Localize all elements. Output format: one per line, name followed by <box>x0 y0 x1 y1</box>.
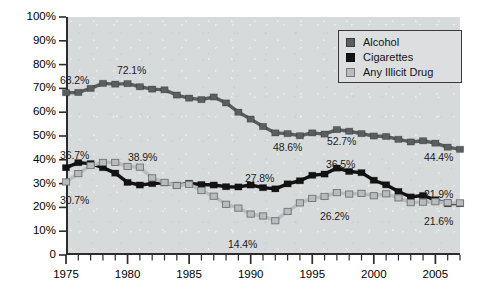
data-value-label: 44.4% <box>424 151 453 163</box>
legend-swatch-any-illicit-drug <box>346 68 355 77</box>
x-axis-tick-label: 1990 <box>238 268 264 280</box>
data-value-label: 48.6% <box>273 141 302 153</box>
legend-swatch-cigarettes <box>346 53 355 62</box>
data-value-label: 27.8% <box>245 172 274 184</box>
data-value-label: 21.6% <box>424 215 453 227</box>
chart-legend: Alcohol Cigarettes Any Illicit Drug <box>338 30 462 83</box>
y-axis-tick-label: 80% <box>33 58 56 70</box>
chart-root: 010%20%30%40%50%60%70%80%90%100% 1975198… <box>0 0 481 301</box>
x-axis-tick-label: 2005 <box>423 268 449 280</box>
y-axis-tick-label: 30% <box>33 177 56 189</box>
data-value-label: 21.9% <box>424 188 453 200</box>
data-value-label: 36.5% <box>326 158 355 170</box>
legend-swatch-alcohol <box>346 38 355 47</box>
legend-label-alcohol: Alcohol <box>363 37 399 48</box>
data-value-label: 38.9% <box>128 151 157 163</box>
data-value-label: 52.7% <box>327 135 356 147</box>
y-axis-tick-label: 70% <box>33 81 56 93</box>
series-layer <box>62 80 463 224</box>
legend-label-cigarettes: Cigarettes <box>363 52 413 63</box>
legend-label-any-illicit-drug: Any Illicit Drug <box>363 67 433 78</box>
x-axis-tick-label: 1975 <box>53 268 79 280</box>
y-axis-tick-label: 0 <box>50 248 56 260</box>
data-value-label: 30.7% <box>60 194 89 206</box>
x-axis-tick-label: 1985 <box>176 268 202 280</box>
data-value-label: 72.1% <box>117 64 146 76</box>
y-axis-tick-label: 100% <box>27 10 56 22</box>
y-axis-tick-label: 50% <box>33 129 56 141</box>
data-value-label: 26.2% <box>320 210 349 222</box>
y-axis-tick-label: 90% <box>33 34 56 46</box>
legend-item-cigarettes: Cigarettes <box>346 50 455 65</box>
data-value-label: 68.2% <box>60 74 89 86</box>
x-axis-tick-label: 2000 <box>361 268 387 280</box>
y-axis-tick-label: 10% <box>33 224 56 236</box>
x-axis-tick-label: 1995 <box>299 268 325 280</box>
data-value-label: 14.4% <box>228 238 257 250</box>
x-axis-tick-label: 1980 <box>115 268 141 280</box>
y-axis-tick-label: 40% <box>33 153 56 165</box>
legend-item-any-illicit-drug: Any Illicit Drug <box>346 65 455 80</box>
legend-item-alcohol: Alcohol <box>346 35 455 50</box>
data-value-label: 36.7% <box>60 149 89 161</box>
y-axis-tick-label: 60% <box>33 105 56 117</box>
y-axis-tick-label: 20% <box>33 200 56 212</box>
